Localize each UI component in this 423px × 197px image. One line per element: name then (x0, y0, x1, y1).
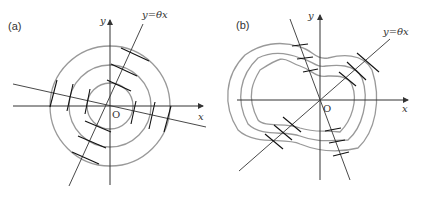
panel-b: (b) y x O y=θx (228, 10, 409, 180)
panel-b-label: (b) (236, 19, 249, 31)
panel-a: (a) y x O y=θx (8, 9, 206, 186)
panel-a-label: (a) (8, 20, 21, 32)
contour-inner (251, 59, 354, 132)
origin-label: O (323, 103, 331, 114)
x-axis-label: x (402, 103, 408, 114)
origin-label: O (112, 109, 120, 120)
line-label: y=θx (141, 9, 168, 20)
line-y-theta-x (239, 39, 390, 171)
figure: (a) y x O y=θx (0, 0, 423, 197)
panel-b-contours (228, 44, 377, 152)
y-axis-label: y (307, 10, 314, 21)
x-axis-label: x (198, 111, 204, 122)
y-axis-label: y (99, 15, 106, 26)
line-label: y=θx (382, 26, 409, 37)
